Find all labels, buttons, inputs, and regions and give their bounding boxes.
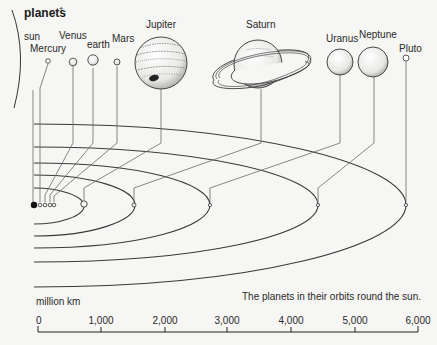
leader-lines: [33, 61, 406, 204]
leader-neptune: [318, 77, 374, 202]
leader-venus: [45, 66, 73, 202]
label-venus: Venus: [59, 30, 87, 41]
mercury-dot-icon: [38, 203, 42, 207]
solar-system-diagram: planets †: [0, 0, 437, 345]
pluto-dot-icon: [404, 203, 407, 206]
title-mark: †: [59, 5, 63, 14]
scale-tick-6000: 6,000: [405, 315, 430, 326]
leader-jupiter: [84, 89, 161, 200]
leader-mars: [54, 66, 117, 202]
venus-icon: [69, 58, 77, 66]
scale-tick-3000: 3,000: [214, 315, 239, 326]
scale-unit-label: million km: [36, 296, 80, 307]
label-mars: Mars: [112, 33, 134, 44]
mars-dot-icon: [52, 203, 56, 207]
saturn-dot-icon: [132, 203, 136, 207]
label-uranus: Uranus: [326, 33, 358, 44]
label-pluto: Pluto: [399, 43, 422, 54]
uranus-icon: [327, 49, 353, 75]
scale-tick-0: 0: [36, 315, 42, 326]
leader-uranus: [210, 75, 340, 202]
scale-tick-1000: 1,000: [88, 315, 113, 326]
mars-icon: [114, 59, 120, 65]
saturn-icon: [213, 40, 311, 89]
label-saturn: Saturn: [246, 19, 275, 30]
scale-tick-5000: 5,000: [342, 315, 367, 326]
planet-labels: sun Mercury Venus earth Mars Jupiter Sat…: [24, 19, 422, 54]
neptune-dot-icon: [316, 203, 319, 206]
leader-saturn: [134, 89, 261, 202]
scale-tick-4000: 4,000: [278, 315, 303, 326]
label-neptune: Neptune: [359, 29, 397, 40]
sun-dot-icon: [31, 202, 37, 208]
venus-dot-icon: [43, 203, 47, 207]
pluto-icon: [403, 55, 409, 61]
neptune-icon: [358, 47, 388, 77]
uranus-dot-icon: [208, 203, 211, 206]
leader-earth: [50, 68, 93, 202]
earth-dot-icon: [48, 203, 52, 207]
label-jupiter: Jupiter: [146, 19, 177, 30]
mercury-icon: [46, 59, 51, 64]
orbit-markers: [31, 201, 408, 208]
scale-tick-2000: 2,000: [152, 315, 177, 326]
jupiter-dot-icon: [81, 201, 87, 207]
label-earth: earth: [87, 39, 110, 50]
orbits: [34, 124, 406, 287]
label-sun: sun: [24, 31, 40, 42]
earth-icon: [88, 55, 98, 65]
label-mercury: Mercury: [30, 43, 66, 54]
caption: The planets in their orbits round the su…: [242, 291, 421, 302]
sun-limb-icon: [12, 10, 21, 108]
leader-mercury: [40, 64, 48, 202]
jupiter-icon: [135, 37, 187, 89]
